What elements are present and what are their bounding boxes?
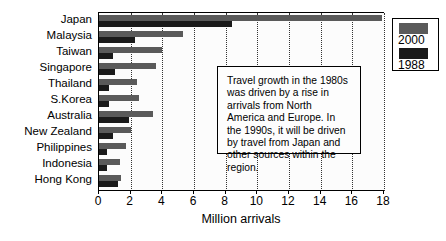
- x-tick-label: 4: [146, 195, 176, 208]
- category-label: Taiwan: [0, 45, 92, 57]
- bar-1988: [99, 21, 232, 27]
- legend: 2000 1988: [392, 18, 439, 71]
- category-label: Philippines: [0, 141, 92, 153]
- bar-1988: [99, 37, 135, 43]
- x-tick-label: 0: [83, 195, 113, 208]
- x-tick-label: 10: [241, 195, 271, 208]
- category-axis-labels: JapanMalaysiaTaiwanSingaporeThailandS.Ko…: [0, 12, 92, 190]
- category-label: New Zealand: [0, 125, 92, 137]
- legend-label-2000: 2000: [398, 34, 434, 47]
- bar-1988: [99, 69, 115, 75]
- legend-item-2000: 2000: [397, 23, 434, 47]
- category-label: Japan: [0, 13, 92, 25]
- x-tick-label: 16: [336, 195, 366, 208]
- x-tick-label: 8: [210, 195, 240, 208]
- category-label: Hong Kong: [0, 173, 92, 185]
- bar-row: [99, 173, 384, 189]
- category-label: Malaysia: [0, 29, 92, 41]
- bar-chart: JapanMalaysiaTaiwanSingaporeThailandS.Ko…: [0, 0, 446, 241]
- annotation-textbox: Travel growth in the 1980s was driven by…: [217, 66, 361, 154]
- category-label: Singapore: [0, 61, 92, 73]
- legend-item-1988: 1988: [397, 48, 434, 72]
- bar-1988: [99, 53, 113, 59]
- category-label: Indonesia: [0, 157, 92, 169]
- bar-1988: [99, 181, 118, 187]
- bar-row: [99, 29, 384, 45]
- category-label: Thailand: [0, 77, 92, 89]
- x-tick-label: 12: [273, 195, 303, 208]
- category-label: Australia: [0, 109, 92, 121]
- x-tick-label: 18: [368, 195, 398, 208]
- x-tick-label: 2: [115, 195, 145, 208]
- bar-1988: [99, 165, 107, 171]
- bar-row: [99, 13, 384, 29]
- bar-1988: [99, 117, 129, 123]
- category-label: S.Korea: [0, 93, 92, 105]
- bar-1988: [99, 133, 113, 139]
- bar-1988: [99, 101, 109, 107]
- x-tick-label: 14: [305, 195, 335, 208]
- bar-1988: [99, 85, 109, 91]
- x-axis-title: Million arrivals: [98, 212, 384, 226]
- legend-label-1988: 1988: [398, 59, 434, 72]
- x-tick-label: 6: [178, 195, 208, 208]
- bar-1988: [99, 149, 107, 155]
- gridline: [384, 13, 385, 191]
- bar-row: [99, 45, 384, 61]
- x-axis-line: [98, 190, 384, 191]
